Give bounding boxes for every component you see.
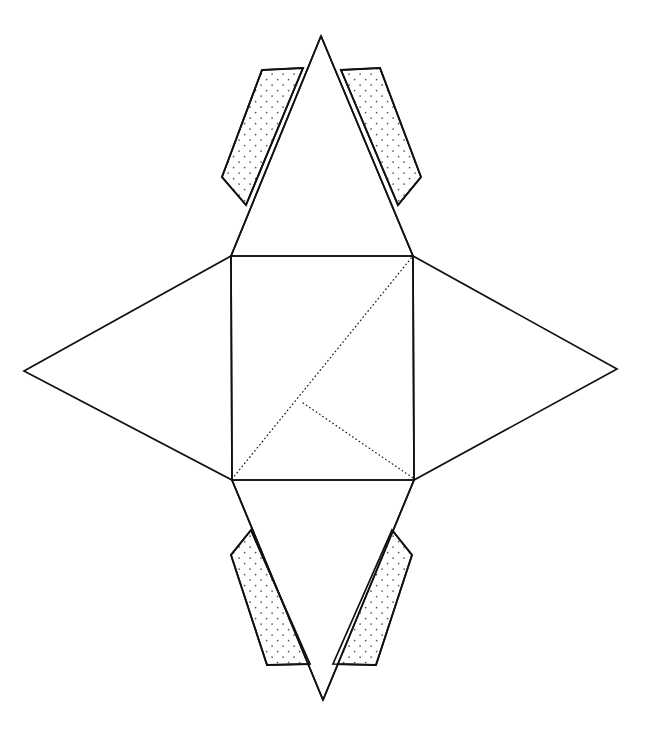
central-square-fill xyxy=(231,256,414,480)
geometric-net-figure: Geometric Net Diagram xyxy=(0,0,645,730)
